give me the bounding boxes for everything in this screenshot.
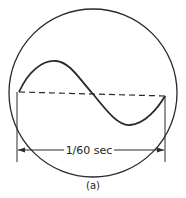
period-label: 1/60 sec	[66, 144, 113, 157]
oscilloscope-figure: 1/60 sec (a)	[0, 0, 186, 198]
arrowhead-left-icon	[18, 148, 25, 153]
figure-caption: (a)	[86, 180, 100, 191]
arrowhead-right-icon	[157, 148, 164, 153]
